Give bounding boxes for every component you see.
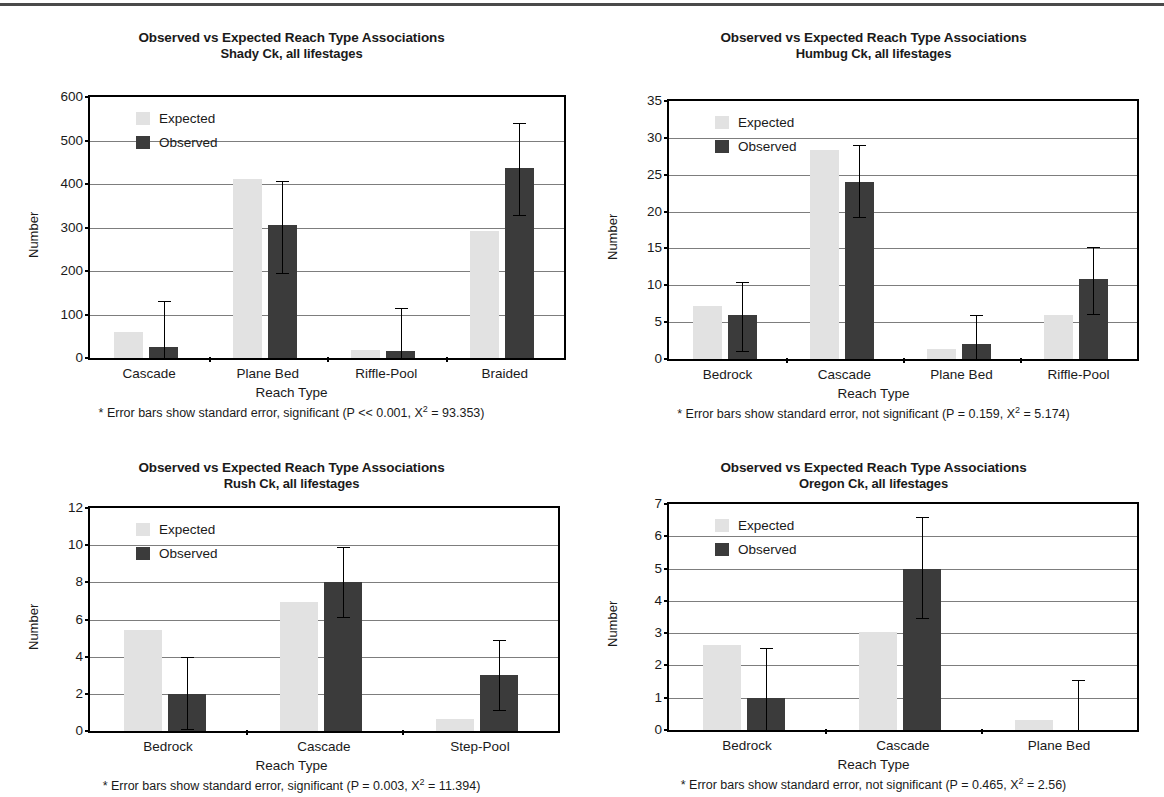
footnote-suffix: = 5.174)	[1020, 407, 1070, 421]
gridline	[669, 175, 1137, 176]
bar-expected	[114, 332, 143, 358]
footnote-text: * Error bars show standard error, signif…	[103, 779, 420, 793]
y-tick-mark	[664, 568, 669, 570]
error-bar	[742, 282, 743, 351]
x-category-label: Bedrock	[669, 738, 825, 753]
error-bar-cap-bottom	[337, 617, 350, 618]
y-tick-label: 100	[60, 310, 83, 320]
error-bar-cap-bottom	[181, 729, 194, 730]
x-category-label: Cascade	[90, 366, 209, 381]
y-tick-mark	[664, 697, 669, 699]
y-tick-label: 35	[647, 96, 662, 106]
bar-expected	[124, 630, 162, 731]
error-bar-cap-top	[337, 547, 350, 548]
y-tick-label: 8	[75, 577, 83, 587]
y-tick-mark	[85, 730, 90, 732]
error-bar-cap-top	[736, 282, 749, 283]
y-tick-mark	[664, 211, 669, 213]
x-category-label: Step-Pool	[402, 739, 558, 754]
chart-footnote: * Error bars show standard error, signif…	[0, 404, 583, 420]
chart-title-rush-ck: Observed vs Expected Reach Type Associat…	[0, 444, 583, 492]
x-axis-label: Reach Type	[0, 385, 583, 400]
chart-footnote: * Error bars show standard error, not si…	[583, 405, 1164, 421]
chart-title-line1: Observed vs Expected Reach Type Associat…	[138, 460, 444, 475]
gridline	[669, 212, 1137, 213]
x-axis-tick	[981, 729, 983, 734]
legend-item-observed: Observed	[715, 139, 797, 154]
legend: ExpectedObserved	[136, 111, 218, 159]
bar-expected	[703, 645, 741, 730]
y-tick-mark	[85, 270, 90, 272]
error-bar-cap-top	[916, 517, 929, 518]
x-category-label: Cascade	[825, 738, 981, 753]
y-tick-mark	[664, 632, 669, 634]
y-tick-mark	[85, 544, 90, 546]
y-axis-label: Number	[26, 211, 41, 257]
x-axis-tick	[209, 357, 211, 362]
x-category-label: Riffle-Pool	[1020, 367, 1137, 382]
error-bar-cap-bottom	[736, 351, 749, 352]
plot-area: 0100200300400500600ExpectedObserved	[88, 95, 566, 360]
legend-swatch-expected	[136, 523, 150, 536]
plot-area: 01234567ExpectedObserved	[667, 502, 1139, 732]
y-tick-label: 30	[647, 133, 662, 143]
error-bar-cap-top	[970, 315, 983, 316]
x-category-label: Riffle-Pool	[327, 366, 446, 381]
legend-label-expected: Expected	[738, 115, 794, 130]
y-tick-label: 0	[654, 725, 662, 735]
bar-expected	[351, 350, 380, 358]
error-bar	[1093, 247, 1094, 314]
x-axis-tick	[786, 358, 788, 363]
x-axis-tick	[1020, 358, 1022, 363]
footnote-text: * Error bars show standard error, not si…	[681, 778, 1019, 792]
y-tick-mark	[85, 693, 90, 695]
y-tick-mark	[85, 140, 90, 142]
error-bar-cap-bottom	[276, 273, 289, 274]
y-tick-label: 10	[68, 540, 83, 550]
y-tick-mark	[664, 358, 669, 360]
y-tick-mark	[664, 100, 669, 102]
error-bar	[282, 181, 283, 274]
y-tick-mark	[85, 314, 90, 316]
legend-label-expected: Expected	[159, 111, 215, 126]
y-tick-label: 300	[60, 223, 83, 233]
y-tick-label: 4	[75, 652, 83, 662]
y-tick-mark	[85, 227, 90, 229]
chart-title-oregon-ck: Observed vs Expected Reach Type Associat…	[583, 444, 1164, 492]
footnote-text: * Error bars show standard error, not si…	[677, 407, 1015, 421]
error-bar-cap-top	[760, 648, 773, 649]
y-tick-label: 200	[60, 266, 83, 276]
y-tick-label: 0	[75, 353, 83, 363]
plot-area: 024681012ExpectedObserved	[88, 506, 560, 733]
error-bar-cap-top	[513, 123, 526, 124]
chart-panel-oregon-ck: Observed vs Expected Reach Type Associat…	[583, 444, 1164, 797]
y-tick-mark	[85, 96, 90, 98]
x-axis-tick	[402, 730, 404, 735]
footnote-text: * Error bars show standard error, signif…	[99, 406, 423, 420]
y-tick-label: 600	[60, 92, 83, 102]
bar-expected	[927, 349, 956, 359]
plot-area: 05101520253035ExpectedObserved	[667, 99, 1139, 361]
x-axis-label: Reach Type	[0, 758, 583, 773]
error-bar	[187, 657, 188, 729]
y-tick-mark	[664, 174, 669, 176]
error-bar-cap-top	[181, 657, 194, 658]
error-bar-cap-top	[1072, 680, 1085, 681]
legend-item-expected: Expected	[136, 111, 218, 126]
y-tick-label: 25	[647, 170, 662, 180]
error-bar-cap-top	[276, 181, 289, 182]
error-bar-cap-bottom	[853, 217, 866, 218]
y-tick-label: 6	[75, 615, 83, 625]
legend-label-observed: Observed	[159, 546, 218, 561]
y-tick-label: 2	[654, 660, 662, 670]
bar-expected	[470, 231, 499, 358]
y-tick-mark	[85, 581, 90, 583]
y-tick-label: 4	[654, 596, 662, 606]
legend-swatch-observed	[136, 136, 150, 149]
y-tick-mark	[664, 503, 669, 505]
legend-item-observed: Observed	[136, 546, 218, 561]
x-axis-tick	[825, 729, 827, 734]
legend: ExpectedObserved	[136, 522, 218, 570]
error-bar	[519, 123, 520, 216]
error-bar-cap-bottom	[158, 358, 171, 359]
